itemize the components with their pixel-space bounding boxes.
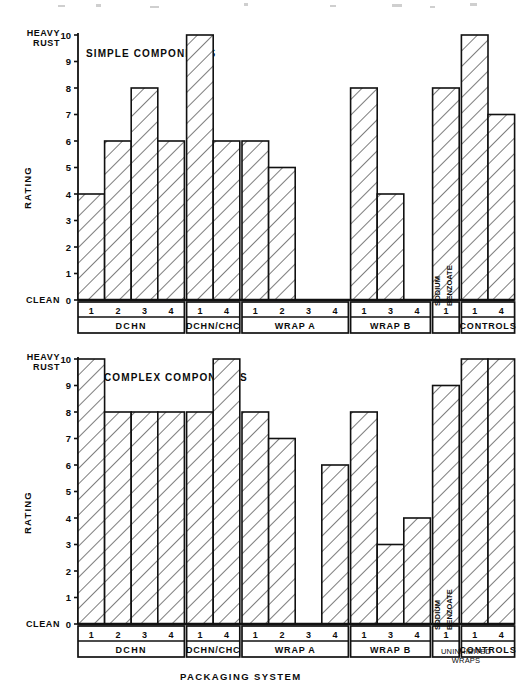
x-tick-label: 4 xyxy=(169,306,174,316)
bar xyxy=(242,141,269,300)
bar xyxy=(269,439,296,625)
y-tick-label: 6 xyxy=(66,136,71,147)
y-tick-label: 9 xyxy=(66,56,71,67)
group-label-vertical: SODIUM xyxy=(433,276,442,306)
bar xyxy=(377,194,404,300)
x-tick-label: 4 xyxy=(499,306,504,316)
bar xyxy=(461,35,488,300)
bar xyxy=(351,412,378,624)
x-tick-label: 3 xyxy=(306,306,311,316)
group-label: DCHN/CHC xyxy=(186,321,240,331)
x-tick-label: 1 xyxy=(253,630,258,640)
bar xyxy=(105,412,132,624)
bar xyxy=(377,545,404,625)
y-tick-label: 8 xyxy=(66,83,71,94)
x-tick-label: 4 xyxy=(415,630,420,640)
x-tick-label: 1 xyxy=(197,630,202,640)
y-tick-label: 3 xyxy=(66,539,71,550)
y-tick-label: 5 xyxy=(66,162,72,173)
bar xyxy=(78,194,105,300)
x-tick-label: 4 xyxy=(333,630,338,640)
x-tick-label: 4 xyxy=(169,630,174,640)
x-tick-label: 3 xyxy=(142,306,147,316)
figure-bar-charts: HEAVY RUST CLEAN RATING SIMPLE COMPONENT… xyxy=(0,0,523,696)
plot-area-simple: 0123456789101234DCHN14DCHN/CHC1234WRAP A… xyxy=(0,14,523,344)
group-label: WRAP A xyxy=(275,321,316,331)
y-tick-label: 9 xyxy=(66,380,71,391)
x-tick-label: 1 xyxy=(361,306,366,316)
group-label: WRAP B xyxy=(370,321,411,331)
y-tick-label: 3 xyxy=(66,215,71,226)
group-label: WRAP A xyxy=(275,645,316,655)
y-tick-label: 6 xyxy=(66,460,71,471)
x-tick-label: 4 xyxy=(333,306,338,316)
bar xyxy=(213,141,240,300)
group-label: WRAP B xyxy=(370,645,411,655)
plot-area-complex: 0123456789101234DCHN14DCHN/CHC1234WRAP A… xyxy=(0,344,523,696)
y-tick-label: 10 xyxy=(60,30,71,41)
x-tick-label: 1 xyxy=(472,630,477,640)
group-label: CONTROLS xyxy=(460,321,517,331)
y-tick-label: 8 xyxy=(66,407,71,418)
y-tick-label: 10 xyxy=(60,354,71,365)
bar xyxy=(131,88,158,300)
x-tick-label: 2 xyxy=(279,306,284,316)
bar xyxy=(404,518,431,624)
bar xyxy=(322,465,349,624)
x-tick-label: 2 xyxy=(279,630,284,640)
footnote-uninhibited-wraps: UNINHIBITED WRAPS xyxy=(420,647,512,665)
y-tick-label: 2 xyxy=(66,242,71,253)
y-tick-label: 1 xyxy=(66,268,72,279)
y-tick-label: 2 xyxy=(66,566,71,577)
bar xyxy=(213,359,240,624)
x-tick-label: 1 xyxy=(197,306,202,316)
bar xyxy=(187,412,214,624)
bar xyxy=(131,412,158,624)
bar xyxy=(158,412,185,624)
x-tick-label: 3 xyxy=(306,630,311,640)
x-tick-label: 4 xyxy=(224,306,229,316)
bar xyxy=(488,359,515,624)
y-tick-label: 1 xyxy=(66,592,72,603)
bar xyxy=(158,141,185,300)
x-tick-label: 1 xyxy=(443,630,448,640)
x-tick-label: 1 xyxy=(253,306,258,316)
y-tick-label: 7 xyxy=(66,433,71,444)
x-tick-label: 3 xyxy=(388,630,393,640)
y-tick-label: 0 xyxy=(66,295,71,306)
bar xyxy=(187,35,214,300)
x-tick-label: 1 xyxy=(361,630,366,640)
x-tick-label: 4 xyxy=(499,630,504,640)
group-label: DCHN xyxy=(115,321,147,331)
chart-complex-components: HEAVY RUST CLEAN RATING COMPLEX COMPONEN… xyxy=(0,344,523,696)
y-tick-label: 4 xyxy=(66,189,72,200)
group-label-vertical: SODIUM xyxy=(433,600,442,630)
bar xyxy=(351,88,378,300)
x-tick-label: 3 xyxy=(142,630,147,640)
x-tick-label: 3 xyxy=(388,306,393,316)
chart-simple-components: HEAVY RUST CLEAN RATING SIMPLE COMPONENT… xyxy=(0,14,523,344)
x-tick-label: 4 xyxy=(415,306,420,316)
x-tick-label: 1 xyxy=(89,306,94,316)
y-tick-label: 4 xyxy=(66,513,72,524)
y-tick-label: 0 xyxy=(66,619,71,630)
bar xyxy=(105,141,132,300)
x-tick-label: 2 xyxy=(115,630,120,640)
x-tick-label: 1 xyxy=(472,306,477,316)
x-tick-label: 1 xyxy=(89,630,94,640)
group-label-vertical: BENZOATE xyxy=(445,589,454,630)
group-label-vertical: BENZOATE xyxy=(445,265,454,306)
bar xyxy=(242,412,269,624)
group-label: DCHN/CHC xyxy=(186,645,240,655)
group-label: DCHN xyxy=(115,645,147,655)
y-tick-label: 5 xyxy=(66,486,72,497)
bar xyxy=(488,115,515,301)
bar xyxy=(78,359,105,624)
scan-artifact-strip xyxy=(0,0,523,12)
y-tick-label: 7 xyxy=(66,109,71,120)
bars-svg-simple: 0123456789101234DCHN14DCHN/CHC1234WRAP A… xyxy=(0,14,523,344)
bar xyxy=(461,359,488,624)
bar xyxy=(433,386,460,625)
x-tick-label: 1 xyxy=(443,306,448,316)
bars-svg-complex: 0123456789101234DCHN14DCHN/CHC1234WRAP A… xyxy=(0,344,523,696)
